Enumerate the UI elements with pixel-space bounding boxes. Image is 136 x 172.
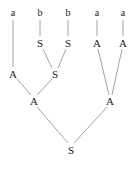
tree-node-nonterminal-n2: A	[93, 38, 101, 49]
tree-node-nonterminal-n0: S	[37, 38, 43, 49]
tree-node-terminal-t3: a	[95, 8, 99, 18]
tree-node-terminal-t2: b	[66, 8, 71, 18]
tree-edge	[98, 49, 109, 95]
tree-node-nonterminal-n1: S	[65, 38, 71, 49]
tree-edge	[37, 79, 52, 95]
tree-node-root-n8: S	[68, 145, 74, 156]
tree-edge	[112, 49, 122, 95]
parse-tree-figure: abbaaSSAAASAAS	[0, 0, 136, 172]
tree-node-terminal-t1: b	[38, 8, 43, 18]
tree-node-terminal-t0: a	[11, 8, 15, 18]
tree-edge	[74, 107, 107, 143]
tree-node-nonterminal-n5: S	[52, 69, 58, 80]
tree-node-nonterminal-n4: A	[9, 69, 17, 80]
tree-node-nonterminal-n6: A	[30, 96, 38, 107]
tree-edge	[17, 79, 31, 95]
tree-edge	[43, 49, 52, 68]
tree-node-terminal-t4: a	[121, 8, 125, 18]
tree-node-nonterminal-n7: A	[106, 96, 114, 107]
tree-node-nonterminal-n3: A	[119, 38, 127, 49]
tree-edge	[37, 107, 68, 143]
tree-edge	[58, 49, 66, 68]
